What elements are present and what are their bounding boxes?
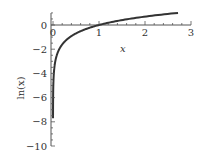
ln-curve xyxy=(53,13,178,118)
y-tick-label: −4 xyxy=(32,68,47,79)
chart: 0123 0−2−4−6−8−10 x ln(x) xyxy=(0,0,206,162)
y-axis-label: ln(x) xyxy=(15,76,26,99)
y-tick-label: 0 xyxy=(41,20,47,31)
x-tick-label: 3 xyxy=(188,27,194,38)
x-tick-label: 0 xyxy=(50,27,56,38)
x-tick-label: 2 xyxy=(142,27,148,38)
y-tick-label: −2 xyxy=(32,44,47,55)
axes xyxy=(51,13,191,146)
y-tick-label: −8 xyxy=(32,116,47,127)
y-tick-label: −6 xyxy=(32,92,47,103)
x-axis-label: x xyxy=(120,43,126,54)
y-tick-label: −10 xyxy=(26,141,47,152)
x-tick-label: 1 xyxy=(96,27,102,38)
